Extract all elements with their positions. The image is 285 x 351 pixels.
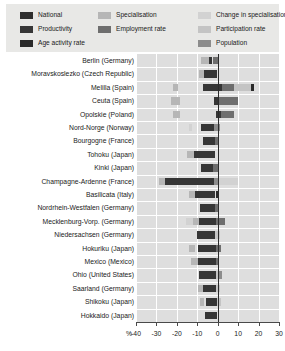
category-label: Moravskoslezko (Czech Republic)	[31, 67, 134, 80]
bar-segment-change_spec	[219, 178, 238, 185]
category-label: Nord-Norge (Norway)	[69, 121, 134, 134]
legend-label-age_activity: Age activity rate	[38, 39, 85, 47]
x-axis-tick	[177, 322, 178, 326]
bar-row	[136, 215, 279, 228]
x-axis-tick-labels: -40-30-20-100102030	[0, 330, 285, 342]
category-label: Melilla (Spain)	[91, 81, 134, 94]
category-label: Ohio (United States)	[72, 268, 134, 281]
legend-swatch-icon-population	[198, 40, 211, 47]
category-label: Hokuriku (Japan)	[82, 242, 134, 255]
bar-segment-productivity	[199, 218, 215, 225]
bar-row	[136, 282, 279, 295]
legend-item-employment: Employment rate	[98, 22, 198, 36]
bar-row	[136, 228, 279, 241]
bar-row	[136, 188, 279, 201]
bar-segment-employment	[218, 97, 238, 104]
chart-container: Berlin (Germany)Moravskoslezko (Czech Re…	[0, 54, 285, 351]
bar-segment-specialisation	[200, 298, 204, 305]
bar-row	[136, 242, 279, 255]
bar-segment-population	[214, 124, 220, 131]
bar-row	[136, 201, 279, 214]
bar-row	[136, 108, 279, 121]
bar-segment-productivity	[197, 231, 214, 238]
bar-row	[136, 309, 279, 322]
legend-swatch-icon-age_activity	[20, 40, 33, 47]
x-axis-tick	[259, 322, 260, 326]
bar-row	[136, 54, 279, 67]
category-label: Mecklenburg-Vorp. (Germany)	[43, 215, 134, 228]
bar-segment-specialisation	[171, 97, 180, 104]
category-label: Champagne-Ardenne (France)	[41, 175, 134, 188]
category-label: Shikoku (Japan)	[85, 295, 134, 308]
legend-item-population: Population	[198, 36, 285, 50]
legend-label-employment: Employment rate	[116, 25, 166, 33]
legend-swatch-icon-productivity	[20, 26, 33, 33]
bar-segment-productivity	[203, 137, 214, 144]
legend-swatch-icon-national	[20, 12, 33, 19]
bar-row	[136, 161, 279, 174]
bar-row	[136, 175, 279, 188]
x-axis-tick	[238, 322, 239, 326]
bar-segment-productivity	[195, 191, 214, 198]
legend-label-specialisation: Specialisation	[116, 11, 157, 19]
bar-segment-employment	[222, 84, 234, 91]
bar-segment-productivity	[199, 271, 215, 278]
bar-row	[136, 148, 279, 161]
legend-item-participation: Participation rate	[198, 22, 285, 36]
x-axis-tick-label: 30	[275, 330, 283, 337]
bar-segment-productivity	[203, 84, 221, 91]
category-label: Berlin (Germany)	[82, 54, 134, 67]
x-axis-tick	[218, 322, 219, 326]
legend-label-population: Population	[216, 39, 247, 47]
bar-segment-productivity	[209, 57, 212, 64]
legend-swatch-icon-specialisation	[98, 12, 111, 19]
bar-segment-productivity	[203, 285, 215, 292]
bar-segment-participation	[234, 84, 251, 91]
category-label: Opolskie (Poland)	[80, 108, 134, 121]
plot-area	[136, 54, 279, 322]
legend-label-change_spec: Change in specialisation	[216, 11, 285, 19]
x-axis-tick-label: -10	[192, 330, 202, 337]
bar-segment-population	[219, 271, 222, 278]
bar-segment-specialisation	[173, 111, 180, 118]
x-axis-tick	[279, 322, 280, 326]
bar-segment-specialisation	[187, 151, 194, 158]
category-label: Basilicata (Italy)	[86, 188, 134, 201]
zero-reference-line	[218, 54, 219, 322]
bar-segment-productivity	[201, 124, 213, 131]
x-axis-ticks	[136, 322, 279, 330]
bar-segment-productivity	[206, 298, 216, 305]
x-axis-unit-label: %	[126, 330, 132, 337]
x-axis-tick-label: -20	[172, 330, 182, 337]
legend-item-age_activity: Age activity rate	[20, 36, 98, 50]
bar-segment-specialisation	[201, 57, 208, 64]
legend-item-change_spec: Change in specialisation	[198, 8, 285, 22]
category-label: Hokkaido (Japan)	[81, 309, 134, 322]
bar-segment-employment	[221, 111, 234, 118]
category-label: Saarland (Germany)	[72, 282, 134, 295]
legend-label-participation: Participation rate	[216, 25, 265, 33]
x-axis-tick-label: 10	[234, 330, 242, 337]
x-axis-tick	[197, 322, 198, 326]
legend-swatch-icon-change_spec	[198, 12, 211, 19]
category-label: Ceuta (Spain)	[92, 94, 134, 107]
bar-segment-productivity	[200, 204, 214, 211]
bar-row	[136, 81, 279, 94]
x-axis-tick-label: -40	[131, 330, 141, 337]
category-label: Tohoku (Japan)	[87, 148, 134, 161]
legend-item-productivity: Productivity	[20, 22, 98, 36]
legend-grid: NationalProductivityAge activity rateSpe…	[20, 8, 277, 50]
category-label: Nordrhein-Westfalen (Germany)	[37, 201, 134, 214]
category-axis: Berlin (Germany)Moravskoslezko (Czech Re…	[0, 54, 136, 322]
bar-segment-productivity	[165, 178, 214, 185]
bar-segment-productivity	[198, 245, 215, 252]
category-label: Bourgogne (France)	[73, 134, 134, 147]
legend-label-national: National	[38, 11, 62, 19]
legend-label-productivity: Productivity	[38, 25, 72, 33]
x-axis-tick-label: 0	[216, 330, 220, 337]
legend-item-national: National	[20, 8, 98, 22]
bar-row	[136, 94, 279, 107]
bar-segment-age_activity	[251, 84, 254, 91]
category-label: Niedersachsen (Germany)	[54, 228, 134, 241]
x-axis-tick-label: 20	[255, 330, 263, 337]
